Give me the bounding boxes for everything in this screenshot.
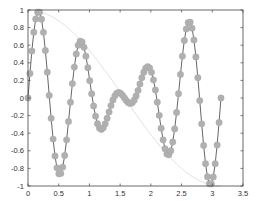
y-tick-label: -0.8 [11,164,24,173]
data-point-marker [65,118,71,124]
x-tick-label: 1.5 [115,189,125,198]
y-tick-label: -0.4 [11,129,24,138]
data-point-marker [214,142,220,148]
y-tick-label: -0.2 [11,111,24,120]
data-point-marker [152,87,158,93]
data-point-marker [179,53,185,59]
data-point-marker [58,170,64,176]
data-point-marker [63,137,69,143]
data-point-marker [158,125,164,131]
data-point-marker [204,174,210,180]
y-tick-label: 0.8 [14,23,24,32]
data-point-marker [44,69,50,75]
data-point-marker [61,152,67,158]
x-tick-label: 2.5 [176,189,186,198]
data-point-marker [175,91,181,97]
y-tick-label: 0.4 [14,58,24,67]
data-point-marker [106,109,112,115]
data-point-marker [81,44,87,50]
y-tick-label: -0.6 [11,146,24,155]
data-point-marker [181,37,187,43]
data-point-marker [150,77,156,83]
data-point-marker [173,109,179,115]
data-point-marker [42,47,48,53]
y-tick-label: 1 [20,6,24,15]
data-point-marker [187,19,193,25]
data-point-marker [200,142,206,148]
data-point-marker [171,126,177,132]
data-point-marker [193,54,199,60]
x-tick-label: 0 [26,189,30,198]
data-point-marker [87,77,93,83]
data-point-marker [212,161,218,167]
data-point-marker [216,119,222,125]
data-point-marker [48,115,54,121]
data-point-marker [90,103,96,109]
data-point-marker [177,71,183,77]
x-tick-label: 0.5 [53,189,63,198]
data-point-marker [191,37,197,43]
data-point-marker [183,26,189,32]
data-point-marker [52,153,58,159]
data-point-marker [83,53,89,59]
line-chart: 00.511.522.533.5 -1-0.8-0.6-0.4-0.200.20… [0,0,256,211]
y-tick-label: 0 [20,94,24,103]
data-point-marker [168,148,174,154]
data-point-marker [29,48,35,54]
data-point-marker [50,136,56,142]
data-point-marker [73,51,79,57]
data-point-marker [135,87,141,93]
x-tick-label: 2 [149,189,153,198]
data-point-marker [54,165,60,171]
data-point-marker [189,25,195,31]
data-point-marker [218,95,224,101]
data-point-marker [156,112,162,118]
data-point-marker [202,160,208,166]
y-tick-label: 0.6 [14,41,24,50]
data-point-marker [33,16,39,22]
data-point-marker [92,113,98,119]
data-point-marker [195,74,201,80]
data-point-marker [67,99,73,105]
data-point-marker [210,174,216,180]
data-point-marker [31,29,37,35]
data-point-marker [69,80,75,86]
data-point-marker [104,115,110,121]
x-tick-label: 3.5 [238,189,248,198]
data-point-marker [154,99,160,105]
x-tick-label: 3 [210,189,214,198]
data-point-marker [198,121,204,127]
data-point-marker [148,69,154,75]
x-tick-label: 1 [87,189,91,198]
data-point-marker [38,16,44,22]
data-point-marker [40,29,46,35]
data-point-marker [85,64,91,70]
data-point-marker [170,139,176,145]
y-tick-label: -1 [17,182,24,191]
data-point-marker [197,97,203,103]
data-point-marker [46,92,52,98]
data-point-marker [137,81,143,87]
data-point-marker [160,137,166,143]
data-point-marker [88,91,94,97]
data-point-marker [60,164,66,170]
y-tick-label: 0.2 [14,76,24,85]
data-point-marker [71,64,77,70]
